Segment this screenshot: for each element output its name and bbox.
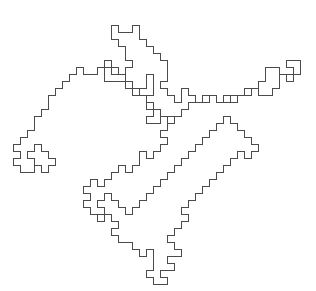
figure-canvas [0,0,316,291]
lattice-random-walk-plot [0,0,316,291]
plot-background [0,0,316,291]
